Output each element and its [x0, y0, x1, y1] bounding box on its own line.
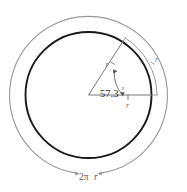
radius-lower-label: r: [126, 101, 130, 110]
radius-upper-label: r: [106, 60, 110, 69]
outer-circumference-circle: [10, 16, 168, 169]
radian-diagram-svg: 57.3 ° r r r 2π r: [0, 0, 187, 192]
circumference-arrow-left: [97, 171, 102, 175]
radius-upper-tick: [111, 62, 116, 65]
angle-arc-arrow-upper: [113, 69, 118, 73]
angle-degree-symbol: °: [122, 86, 125, 93]
figure-root: 57.3 ° r r r 2π r: [0, 0, 187, 192]
circumference-label: 2π: [79, 172, 89, 182]
arc-bracket-tick-upper: [123, 37, 126, 42]
circumference-variable-label: r: [94, 172, 98, 182]
arc-bracket-label-tick: [151, 62, 155, 64]
angle-value-label: 57.3: [100, 88, 118, 99]
